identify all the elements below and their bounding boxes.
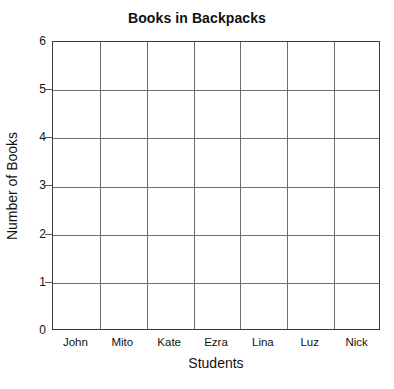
y-tick-label-4: 4 [20,131,46,143]
gridline-horizontal-5 [53,90,379,91]
y-tick-label-2: 2 [20,228,46,240]
plot-area [52,41,380,330]
x-tick-label-john: John [52,334,99,352]
gridline-vertical-5 [287,42,288,329]
x-tick-label-luz: Luz [286,334,333,352]
gridline-vertical-6 [334,42,335,329]
gridline-horizontal-4 [53,138,379,139]
y-axis-tick-labels: 6 5 4 3 2 1 0 [14,0,46,389]
page-title: Books in Backpacks [0,10,394,26]
x-tick-label-kate: Kate [146,334,193,352]
y-tick-mark-1 [45,282,52,283]
y-tick-mark-4 [45,137,52,138]
y-tick-mark-2 [45,234,52,235]
x-axis-title: Students [52,355,380,371]
gridline-horizontal-3 [53,187,379,188]
x-tick-label-nick: Nick [333,334,380,352]
x-tick-label-ezra: Ezra [193,334,240,352]
y-tick-label-5: 5 [20,83,46,95]
x-axis-tick-labels: John Mito Kate Ezra Lina Luz Nick [52,334,380,352]
y-tick-label-1: 1 [20,276,46,288]
x-tick-label-mito: Mito [99,334,146,352]
gridline-horizontal-2 [53,235,379,236]
gridline-vertical-4 [240,42,241,329]
y-tick-label-3: 3 [20,179,46,191]
y-tick-label-0: 0 [20,324,46,336]
gridline-vertical-1 [100,42,101,329]
chart-page: Books in Backpacks Number of Books 6 5 4… [0,0,394,389]
y-tick-label-6: 6 [20,35,46,47]
gridline-vertical-2 [147,42,148,329]
gridline-horizontal-1 [53,283,379,284]
y-tick-mark-3 [45,185,52,186]
gridline-vertical-3 [194,42,195,329]
y-tick-mark-5 [45,89,52,90]
x-tick-label-lina: Lina [239,334,286,352]
